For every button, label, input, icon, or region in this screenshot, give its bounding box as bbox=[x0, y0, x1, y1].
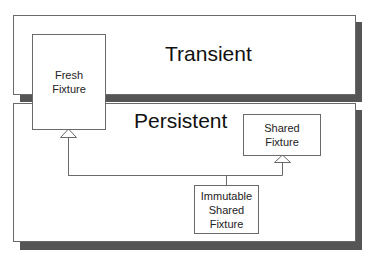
shared-fixture-node: Shared Fixture bbox=[243, 114, 321, 156]
immutable-fixture-label-line2: Shared bbox=[209, 203, 244, 217]
fresh-fixture-label-line2: Fixture bbox=[52, 82, 86, 96]
shared-fixture-label-line1: Shared bbox=[264, 121, 299, 135]
shared-inheritance-arrow-icon bbox=[275, 155, 291, 163]
fresh-fixture-node: Fresh Fixture bbox=[32, 34, 106, 130]
immutable-shared-fixture-node: Immutable Shared Fixture bbox=[194, 185, 259, 234]
fresh-fixture-label-line1: Fresh bbox=[55, 68, 83, 82]
immutable-fixture-label-line1: Immutable bbox=[201, 189, 252, 203]
shared-fixture-label-line2: Fixture bbox=[265, 135, 299, 149]
immutable-fixture-label-line3: Fixture bbox=[210, 217, 244, 231]
fresh-inheritance-arrow-icon bbox=[61, 129, 77, 138]
